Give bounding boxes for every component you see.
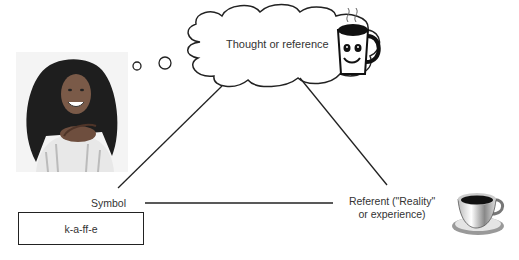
referent-label-line2: or experience): [340, 208, 444, 221]
thought-bubble-small: [133, 62, 141, 70]
symbol-word-box: k-a-ff-e: [18, 212, 144, 245]
woman-photo: [16, 52, 128, 172]
referent-label-line1: Referent ("Reality": [340, 195, 444, 208]
thought-label: Thought or reference: [226, 38, 329, 50]
edge-thought-referent: [300, 78, 387, 185]
symbol-label: Symbol: [91, 197, 126, 209]
coffee-cup-icon: [452, 193, 504, 235]
edge-symbol-thought: [118, 86, 222, 188]
thought-bubble-medium: [159, 57, 171, 69]
symbol-word: k-a-ff-e: [64, 223, 97, 235]
referent-label: Referent ("Reality" or experience): [340, 195, 444, 221]
